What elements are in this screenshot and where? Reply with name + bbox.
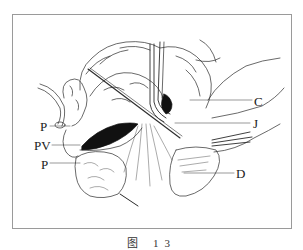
label-pv: PV	[34, 139, 51, 152]
label-j: J	[253, 117, 258, 130]
label-p-upper: P	[40, 120, 47, 133]
figure-caption: 图 13	[0, 234, 303, 250]
label-d: D	[236, 167, 245, 180]
label-p-lower: P	[41, 158, 48, 171]
label-c: C	[254, 95, 263, 108]
